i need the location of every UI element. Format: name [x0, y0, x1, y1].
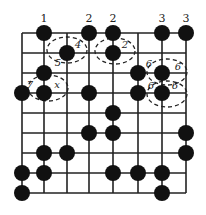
ellipse-label: 6 — [172, 80, 179, 91]
black-stone — [130, 165, 146, 181]
black-stone — [178, 125, 194, 141]
black-stone — [81, 25, 97, 41]
grid-diagram: 122334527x6666 — [0, 0, 206, 215]
black-stone — [36, 85, 52, 101]
ellipse-label: 2 — [121, 39, 128, 50]
black-stone — [105, 125, 121, 141]
black-stone — [154, 85, 170, 101]
black-stone — [154, 165, 170, 181]
column-label: 1 — [41, 12, 48, 25]
black-stone — [105, 165, 121, 181]
black-stone — [154, 185, 170, 201]
black-stone — [59, 45, 75, 61]
black-stone — [178, 145, 194, 161]
ellipse-label: 7 — [27, 79, 34, 90]
ellipse-label: 6 — [148, 80, 155, 91]
black-stone — [36, 65, 52, 81]
black-stone — [130, 85, 146, 101]
column-label: 3 — [159, 12, 166, 25]
ellipse-label: x — [54, 79, 60, 90]
black-stone — [130, 65, 146, 81]
black-stone — [105, 25, 121, 41]
column-label: 2 — [86, 12, 93, 25]
ellipse-label: 6 — [175, 61, 182, 72]
ellipse-label: 4 — [74, 39, 81, 50]
black-stone — [178, 25, 194, 41]
column-label: 2 — [110, 12, 117, 25]
black-stone — [154, 25, 170, 41]
black-stone — [59, 145, 75, 161]
ellipse-label: 6 — [146, 58, 153, 69]
black-stone — [36, 25, 52, 41]
black-stone — [105, 45, 121, 61]
black-stone — [154, 65, 170, 81]
black-stone — [81, 85, 97, 101]
black-stone — [36, 145, 52, 161]
black-stone — [14, 185, 30, 201]
black-stone — [36, 165, 52, 181]
ellipse-label: 5 — [55, 57, 61, 68]
black-stone — [14, 165, 30, 181]
column-label: 3 — [183, 12, 190, 25]
black-stone — [105, 105, 121, 121]
black-stone — [81, 125, 97, 141]
